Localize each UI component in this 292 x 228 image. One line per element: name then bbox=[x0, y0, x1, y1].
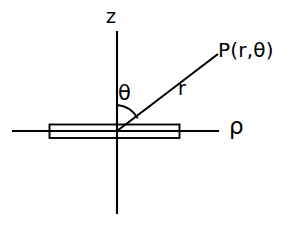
diagram-canvas bbox=[0, 0, 292, 228]
point-label: P(r,θ) bbox=[218, 40, 274, 60]
z-axis-label: z bbox=[106, 7, 116, 26]
theta-angle-arc bbox=[117, 105, 138, 118]
theta-angle-label: θ bbox=[118, 83, 131, 104]
coordinate-diagram-figure: z ρ θ r P(r,θ) bbox=[0, 0, 292, 228]
radius-label: r bbox=[178, 79, 186, 98]
radius-ray-line bbox=[117, 54, 218, 131]
rho-axis-label: ρ bbox=[229, 115, 244, 138]
